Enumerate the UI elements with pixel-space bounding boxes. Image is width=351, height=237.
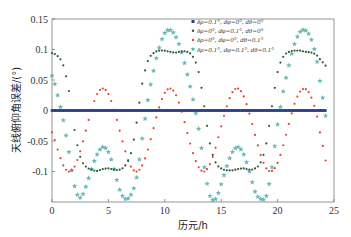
- data-point: [76, 159, 78, 161]
- data-point: [172, 89, 174, 91]
- data-point: [189, 142, 191, 144]
- data-point: [302, 88, 304, 90]
- data-point: [167, 88, 169, 90]
- data-point: [200, 87, 202, 89]
- data-point: [296, 49, 298, 51]
- y-axis: 0.150.10.050-0.05-0.1: [27, 14, 55, 178]
- data-point: [229, 97, 231, 99]
- data-point: [223, 169, 225, 171]
- data-point: [220, 125, 222, 127]
- data-point: [82, 140, 84, 142]
- data-point: [291, 112, 293, 114]
- data-point: [130, 166, 132, 168]
- data-point: [110, 100, 112, 102]
- data-point: [277, 71, 279, 73]
- data-point: [93, 100, 95, 102]
- data-point: [234, 169, 236, 171]
- data-point: [274, 167, 276, 169]
- data-point: [54, 53, 56, 55]
- data-point: [169, 51, 171, 53]
- data-point: [299, 90, 301, 92]
- legend-label: δρ=0.1°, dφ=0.1°, dθ=0.1°: [197, 46, 274, 54]
- data-point: [136, 170, 138, 172]
- data-point: [265, 167, 267, 169]
- data-point: [57, 148, 59, 150]
- data-point: [234, 88, 236, 90]
- data-point: [121, 167, 123, 169]
- data-point: [305, 51, 307, 53]
- data-point: [62, 64, 64, 66]
- data-point: [226, 105, 228, 107]
- data-point: [150, 138, 152, 140]
- data-point: [192, 56, 194, 58]
- x-tick-label: 10: [160, 205, 170, 216]
- data-point: [206, 125, 208, 127]
- data-point: [214, 161, 216, 163]
- data-point: [167, 50, 169, 52]
- data-point: [136, 122, 138, 124]
- data-point: [90, 169, 92, 171]
- y-tick-label: -0.1: [32, 166, 48, 177]
- data-point: [198, 71, 200, 73]
- data-point: [305, 88, 307, 90]
- data-point: [313, 53, 315, 55]
- data-point: [169, 87, 171, 89]
- data-point: [282, 56, 284, 58]
- data-point: [195, 62, 197, 64]
- data-point: [302, 50, 304, 52]
- data-point: [133, 139, 135, 141]
- data-point: [243, 95, 245, 97]
- data-point: [119, 169, 121, 171]
- data-point: [158, 106, 160, 108]
- data-point: [268, 170, 270, 172]
- y-tick-label: 0.05: [31, 75, 49, 86]
- data-point: [271, 170, 273, 172]
- legend-label: δρ=0°, dφ=0°, dθ=0.1°: [197, 36, 263, 44]
- data-point: [291, 50, 293, 52]
- data-point: [322, 61, 324, 63]
- x-tick-label: 0: [50, 205, 55, 216]
- data-point: [279, 62, 281, 64]
- data-point: [144, 157, 146, 159]
- data-point: [189, 52, 191, 54]
- data-point: [254, 167, 256, 169]
- legend-label: δρ=0°, dφ=0.1°, dθ=0°: [197, 27, 263, 35]
- data-point: [99, 89, 101, 91]
- data-point: [251, 123, 253, 125]
- data-point: [155, 116, 157, 118]
- legend: δρ=0.1°, dφ=0°, dθ=0°δρ=0°, dφ=0.1°, dθ=…: [191, 18, 274, 54]
- data-point: [296, 95, 298, 97]
- data-point: [88, 168, 90, 170]
- data-point: [285, 52, 287, 54]
- data-point: [68, 170, 70, 172]
- data-point: [257, 165, 259, 167]
- data-point: [257, 144, 259, 146]
- data-point: [172, 51, 174, 53]
- data-point: [138, 102, 140, 104]
- data-point: [313, 105, 315, 107]
- data-point: [223, 115, 225, 117]
- data-point: [299, 50, 301, 52]
- data-point: [65, 169, 67, 171]
- data-point: [104, 167, 106, 169]
- data-point: [152, 52, 154, 54]
- data-point: [308, 51, 310, 53]
- data-point: [147, 148, 149, 150]
- data-point: [288, 123, 290, 125]
- data-point: [161, 98, 163, 100]
- data-point: [319, 58, 321, 60]
- data-point: [237, 87, 239, 89]
- data-point: [271, 105, 273, 107]
- data-point: [85, 166, 87, 168]
- data-point: [127, 160, 129, 162]
- data-point: [161, 49, 163, 51]
- data-point: [183, 121, 185, 123]
- data-point: [260, 154, 262, 156]
- data-point: [96, 93, 98, 95]
- data-point: [73, 166, 75, 168]
- data-point: [59, 157, 61, 159]
- data-point: [217, 136, 219, 138]
- data-point: [186, 51, 188, 53]
- data-point: [229, 169, 231, 171]
- data-point: [293, 50, 295, 52]
